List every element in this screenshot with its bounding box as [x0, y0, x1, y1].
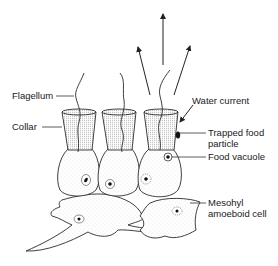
water-current-arrows: [138, 14, 190, 95]
cell-body-3: [138, 149, 181, 197]
collar-2: [102, 112, 136, 150]
label-water-current: Water current: [192, 95, 250, 106]
arrow-up-right: [174, 46, 190, 95]
label-trapped-food-1: Trapped food: [208, 127, 264, 138]
arrow-up-left: [138, 47, 150, 95]
amoeboid-cell-left: [26, 194, 158, 251]
label-collar: Collar: [12, 121, 37, 132]
choanocyte-cells: [58, 149, 182, 197]
amoeboid-cell-right: [140, 198, 200, 238]
label-mesohyl-2: amoeboid cell: [208, 208, 267, 219]
label-food-vacuole: Food vacuole: [208, 151, 265, 162]
collar-1: [62, 112, 96, 150]
label-flagellum: Flagellum: [12, 90, 53, 101]
cell-body-1: [58, 149, 100, 196]
cell-body-2: [98, 149, 139, 196]
trapped-food-particle: [176, 132, 180, 139]
food-vacuole: [164, 153, 172, 161]
label-trapped-food-2: particle: [208, 138, 239, 149]
choanocyte-diagram: Flagellum Collar Water current Trapped f…: [0, 0, 278, 266]
mesohyl-amoeboid-cells: [26, 194, 200, 251]
label-mesohyl-1: Mesohyl: [208, 197, 243, 208]
water-current-inflow-arrow: [180, 105, 193, 122]
